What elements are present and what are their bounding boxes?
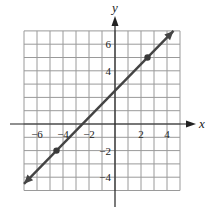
y-axis-label: y [110,0,118,15]
x-tick-label: 4 [164,128,170,140]
x-axis-label: x [198,116,205,131]
y-tick-label: −4 [99,171,111,183]
marked-point [144,54,150,60]
data-line [24,31,174,184]
grid [24,31,180,191]
x-tick-label: −2 [83,128,95,140]
marked-point [53,147,59,153]
y-tick-label: −2 [99,145,111,157]
coordinate-plane: −6−4−224−4−246 x y [0,0,213,217]
y-tick-label: 4 [106,65,112,77]
data-line-segment [24,31,174,184]
y-axis-arrow-icon [112,16,119,26]
x-axis-arrow-icon [186,121,196,128]
x-tick-label: −6 [31,128,43,140]
y-tick-label: 6 [106,38,112,50]
x-tick-label: 2 [138,128,144,140]
